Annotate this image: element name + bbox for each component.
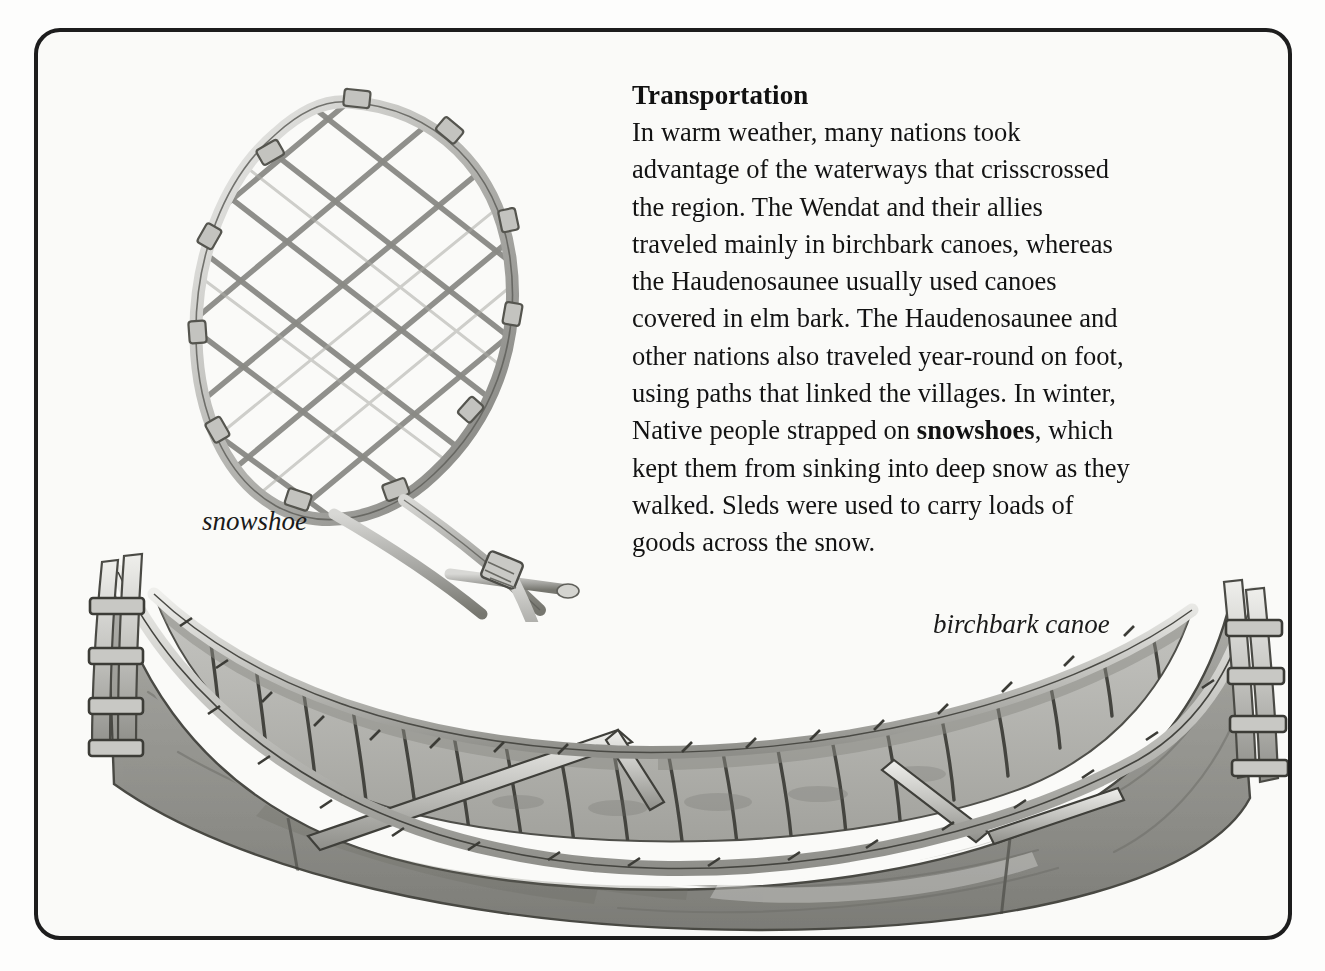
section-body-text: In warm weather, many nations took advan… [632,114,1130,562]
feature-box: snowshoe birchbark canoe Transportation … [34,28,1292,940]
bold-term-snowshoes: snowshoes [917,415,1035,445]
page-top-text-sliver [0,0,1325,16]
birchbark-canoe-illustration [58,502,1292,932]
textbook-page: snowshoe birchbark canoe Transportation … [0,0,1325,971]
caption-birchbark-canoe: birchbark canoe [933,609,1110,640]
caption-snowshoe: snowshoe [202,506,307,537]
section-heading: Transportation [632,78,1130,112]
body-text-part-1: In warm weather, many nations took advan… [632,117,1124,445]
text-column: Transportation In warm weather, many nat… [632,78,1130,562]
